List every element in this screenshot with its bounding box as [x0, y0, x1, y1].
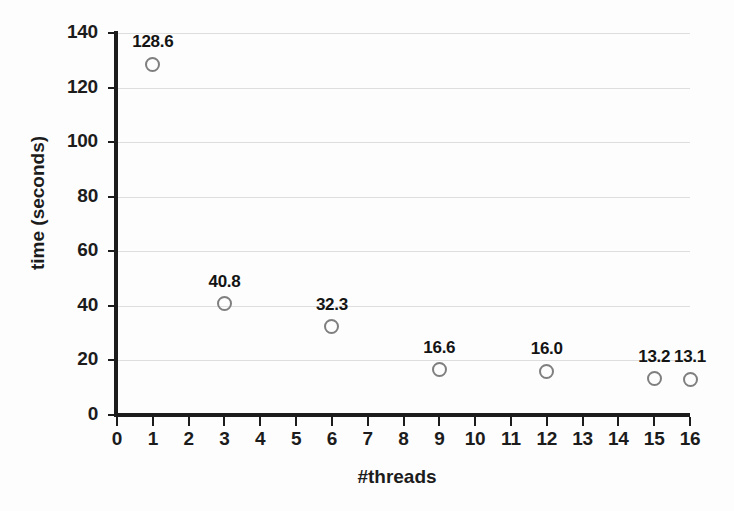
gridline: [117, 306, 690, 307]
data-point-label: 32.3: [316, 295, 348, 315]
data-point-marker: [539, 364, 554, 379]
x-tick: [331, 417, 333, 426]
x-tick-label: 4: [240, 428, 280, 450]
x-tick: [367, 417, 369, 426]
x-tick: [582, 417, 584, 426]
gridline: [117, 360, 690, 361]
x-tick-label: 13: [563, 428, 603, 450]
x-tick-label: 12: [527, 428, 567, 450]
x-tick-label: 1: [133, 428, 173, 450]
x-tick-label: 7: [348, 428, 388, 450]
x-tick: [546, 417, 548, 426]
y-tick-label: 0: [32, 403, 98, 425]
y-tick: [108, 305, 117, 307]
data-point-label: 13.1: [674, 347, 706, 367]
x-tick: [689, 417, 691, 426]
x-tick-label: 5: [276, 428, 316, 450]
plot-area: [117, 33, 690, 415]
x-tick-label: 10: [455, 428, 495, 450]
y-tick: [108, 32, 117, 34]
x-tick-label: 11: [491, 428, 531, 450]
x-tick: [510, 417, 512, 426]
data-point-marker: [432, 362, 447, 377]
x-tick: [438, 417, 440, 426]
x-tick: [403, 417, 405, 426]
x-tick-label: 2: [169, 428, 209, 450]
gridline: [117, 88, 690, 89]
y-tick: [108, 196, 117, 198]
y-tick: [108, 414, 117, 416]
gridline: [117, 33, 690, 34]
x-tick-label: 3: [204, 428, 244, 450]
x-axis-title: #threads: [0, 466, 734, 488]
data-point-label: 128.6: [132, 32, 173, 52]
y-tick: [108, 250, 117, 252]
y-tick: [108, 359, 117, 361]
x-tick: [152, 417, 154, 426]
x-tick-label: 0: [97, 428, 137, 450]
gridline: [117, 251, 690, 252]
x-tick: [188, 417, 190, 426]
y-axis-title: time (seconds): [27, 93, 49, 313]
x-tick-label: 14: [598, 428, 638, 450]
x-tick: [295, 417, 297, 426]
x-tick-label: 8: [384, 428, 424, 450]
x-tick-label: 6: [312, 428, 352, 450]
x-tick: [116, 417, 118, 426]
data-point-label: 13.2: [638, 347, 670, 367]
x-tick-label: 15: [634, 428, 674, 450]
data-point-label: 16.6: [423, 338, 455, 358]
x-tick: [653, 417, 655, 426]
y-tick-label: 140: [32, 21, 98, 43]
data-point-label: 16.0: [531, 339, 563, 359]
gridline: [117, 197, 690, 198]
data-point-marker: [683, 372, 698, 387]
y-tick-label: 20: [32, 348, 98, 370]
data-point-label: 40.8: [208, 272, 240, 292]
x-tick: [617, 417, 619, 426]
y-tick: [108, 87, 117, 89]
x-tick: [223, 417, 225, 426]
y-tick: [108, 141, 117, 143]
data-point-marker: [145, 57, 160, 72]
x-tick: [474, 417, 476, 426]
gridline: [117, 142, 690, 143]
scatter-chart: 020406080100120140 012345678910111213141…: [0, 0, 734, 511]
x-tick: [259, 417, 261, 426]
x-tick-label: 16: [670, 428, 710, 450]
x-tick-label: 9: [419, 428, 459, 450]
